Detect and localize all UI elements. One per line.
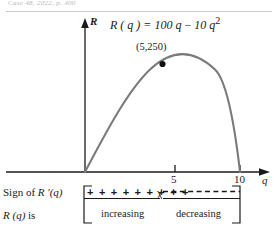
behavior-row-suffix: is: [25, 209, 35, 221]
vertex-point-marker: [159, 61, 165, 67]
formula-term1: 100 q: [154, 18, 181, 32]
behavior-row-function: R (q): [3, 209, 25, 221]
horizontal-axis-label: q: [262, 174, 268, 186]
function-formula: R ( q ) = 100 q − 10 q2: [110, 15, 220, 33]
figure-page: Case 48, 2022, p. 400: [0, 0, 277, 236]
sign-row-prefix: Sign of: [3, 186, 38, 198]
formula-minus: −: [184, 18, 191, 32]
vertex-coordinate-label: (5,250): [136, 41, 167, 52]
x-tick-label-10: 10: [234, 173, 245, 185]
positive-sign-run: + + + + + + + + +: [87, 186, 190, 198]
sign-of-derivative-row-label: Sign of R '(q): [3, 186, 63, 198]
interval-label-decreasing: decreasing: [176, 208, 221, 219]
revenue-curve: [85, 54, 240, 172]
sign-row-function: R '(q): [38, 186, 63, 198]
formula-exponent: 2: [215, 15, 220, 26]
critical-point-x-marker: χ: [157, 188, 162, 199]
vertical-axis-label: R: [90, 15, 97, 27]
horizontal-axis: [6, 168, 270, 176]
interval-label-increasing: increasing: [101, 208, 144, 219]
function-behavior-row-label: R (q) is: [3, 209, 35, 221]
x-tick-label-5: 5: [171, 173, 177, 185]
formula-term2: 10 q: [194, 18, 215, 32]
formula-lhs: R ( q ) =: [110, 18, 151, 32]
vertical-axis: [81, 18, 89, 172]
revenue-function-figure: [0, 0, 277, 236]
axis-ticks: [175, 165, 240, 172]
